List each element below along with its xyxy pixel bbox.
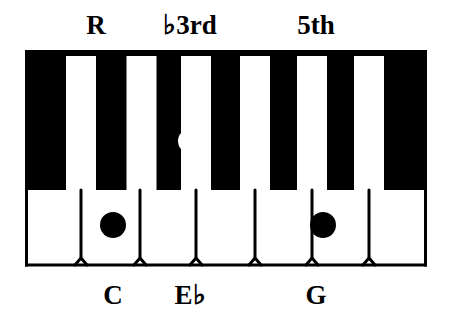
marker-fifth-g[interactable] (310, 212, 336, 238)
keyboard-svg (25, 50, 427, 272)
top-label-fifth: 5th (297, 12, 335, 39)
bottom-label-e-flat-text: E (174, 280, 192, 310)
white-key-top-c-d-gap[interactable] (66, 56, 96, 190)
bottom-label-e-flat: E♭ (174, 282, 205, 309)
black-key-d-sharp[interactable] (96, 50, 126, 190)
black-key-c-sharp[interactable] (37, 50, 66, 190)
piano-chord-diagram: R ♭3rd 5th (0, 0, 450, 327)
top-label-root: R (86, 12, 106, 39)
white-key-top-e-f-gap[interactable] (181, 56, 211, 190)
flat-symbol-icon-bottom: ♭ (193, 280, 206, 310)
white-key-top-f-g-gap[interactable] (240, 56, 270, 190)
black-key-a-sharp[interactable] (327, 50, 354, 190)
marker-flat-third-eb[interactable] (178, 129, 202, 153)
white-key-top-d-e-gap[interactable] (127, 56, 157, 190)
bottom-label-g: G (305, 282, 326, 309)
bottom-label-c-text: C (103, 280, 123, 310)
white-key-top-g-a-gap[interactable] (297, 56, 327, 190)
bottom-label-c: C (103, 282, 123, 309)
top-label-fifth-text: 5th (297, 10, 335, 40)
bottom-label-g-text: G (305, 280, 326, 310)
black-key-g-sharp[interactable] (270, 50, 297, 190)
top-label-root-text: R (86, 10, 106, 40)
top-label-flat-third: ♭3rd (163, 12, 217, 39)
black-key-f-sharp[interactable] (211, 50, 240, 190)
keyboard (25, 50, 427, 272)
top-label-flat-third-text: 3rd (176, 10, 217, 40)
flat-symbol-icon: ♭ (163, 10, 176, 40)
marker-root-c[interactable] (100, 212, 126, 238)
white-key-top-a-b-gap[interactable] (354, 56, 384, 190)
